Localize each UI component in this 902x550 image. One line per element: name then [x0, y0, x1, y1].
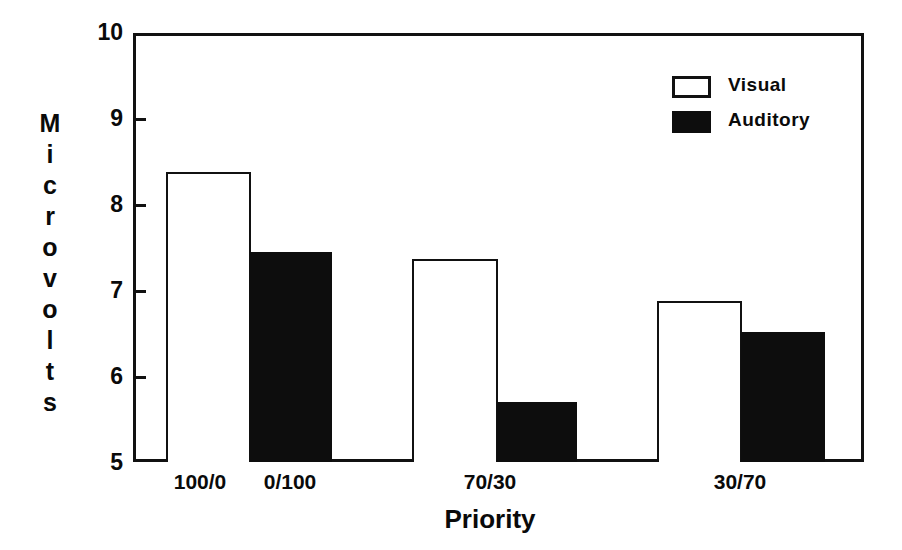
legend-label-visual: Visual [728, 74, 787, 96]
y-tick-label-8: 8 [83, 193, 123, 216]
legend-item-visual: Visual [672, 72, 852, 107]
y-tick-mark-6 [133, 376, 146, 379]
y-tick-label-10: 10 [83, 21, 123, 44]
y-tick-label-9: 9 [83, 107, 123, 130]
x-tick-label-0-100: 0/100 [240, 470, 340, 493]
y-axis-title-letter: t [30, 356, 70, 387]
bar-chart-figure: M i c r o v o l t s 10 9 8 7 6 5 100/0 0… [0, 0, 902, 550]
x-axis-title: Priority [380, 504, 600, 535]
y-tick-label-7: 7 [83, 279, 123, 302]
bar-visual-group-1 [166, 172, 251, 462]
y-tick-mark-7 [133, 290, 146, 293]
y-tick-label-6: 6 [83, 365, 123, 388]
y-tick-mark-8 [133, 204, 146, 207]
y-axis-title-letter: o [30, 232, 70, 263]
y-tick-label-5: 5 [83, 451, 123, 474]
bar-visual-group-3 [657, 301, 742, 462]
x-tick-label-100-0: 100/0 [150, 470, 250, 493]
legend-swatch-visual-icon [672, 76, 711, 98]
y-axis-title-letter: o [30, 294, 70, 325]
y-axis-title-letter: M [30, 108, 70, 139]
bar-visual-group-2 [412, 259, 498, 462]
y-axis-title-letter: r [30, 201, 70, 232]
bar-auditory-group-2 [497, 402, 577, 462]
bar-auditory-group-1 [250, 252, 332, 462]
legend-item-auditory: Auditory [672, 107, 852, 142]
y-axis-title: M i c r o v o l t s [30, 108, 70, 418]
legend-swatch-auditory-icon [672, 111, 711, 133]
legend: Visual Auditory [672, 72, 852, 142]
legend-label-auditory: Auditory [728, 109, 810, 131]
x-tick-label-30-70: 30/70 [690, 470, 790, 493]
y-axis-title-letter: s [30, 387, 70, 418]
y-tick-mark-9 [133, 118, 146, 121]
y-axis-title-letter: l [30, 325, 70, 356]
y-axis-title-letter: i [30, 139, 70, 170]
y-axis-title-letter: c [30, 170, 70, 201]
bar-auditory-group-3 [741, 332, 825, 462]
x-tick-label-70-30: 70/30 [440, 470, 540, 493]
y-axis-title-letter: v [30, 263, 70, 294]
